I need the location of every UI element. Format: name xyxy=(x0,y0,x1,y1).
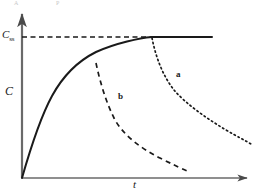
y-axis-steady-state-label: Css xyxy=(2,29,14,43)
curve-b-label: b xyxy=(118,92,123,101)
decline-curve-b xyxy=(96,63,190,172)
accumulation-curve xyxy=(22,37,212,178)
y-axis-steady-state-label-subscript: ss xyxy=(9,35,14,43)
y-axis-title: C xyxy=(5,85,13,97)
decline-curve-a xyxy=(152,38,251,144)
pharmacokinetic-concentration-time-figure: A P Css C t a b xyxy=(0,0,256,194)
plot-canvas xyxy=(0,0,256,194)
x-axis-title: t xyxy=(133,179,136,190)
curve-a-label: a xyxy=(176,70,181,79)
